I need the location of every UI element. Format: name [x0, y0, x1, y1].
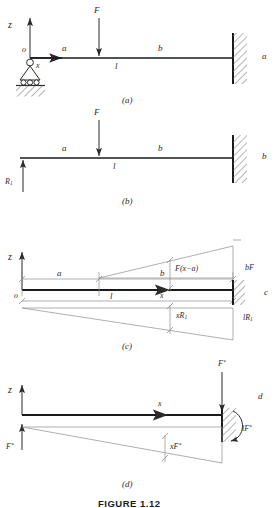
panel-b-reaction-label: R1	[5, 178, 13, 186]
panel-c-axis-z-label: z	[8, 252, 12, 262]
panel-b-span-l-label: l	[113, 162, 116, 171]
panel-a-axis-z-label: z	[8, 20, 12, 30]
panel-d-virtual-moment-label: lF*	[242, 425, 252, 433]
panel-c-moment-lower-label: xR1	[176, 312, 187, 320]
panel-c-axis-x-label: x	[160, 292, 164, 300]
panel-c-graphics	[19, 240, 245, 340]
panel-c-origin-label: o	[14, 292, 18, 300]
panel-a-span-l-label: l	[115, 62, 118, 71]
panel-d-virtual-moment-mid-label: xF*	[170, 443, 181, 451]
panel-d-graphics	[22, 372, 243, 463]
panel-c-moment-lower-end-label: lR1	[243, 314, 253, 322]
panel-c-side-letter: c	[264, 288, 268, 297]
panel-d-virtual-force-top-label: F*	[218, 360, 226, 368]
panel-d-axis-z-label: z	[8, 385, 12, 395]
figure-vector-canvas	[0, 0, 280, 508]
panel-c-segment-a-label: a	[57, 269, 62, 278]
panel-b-side-letter: b	[262, 152, 267, 161]
panel-a-axis-x-label: x	[36, 62, 40, 70]
panel-a-origin-label: o	[22, 46, 26, 54]
panel-a-side-letter: a	[262, 52, 267, 61]
panel-b-caption: (b)	[122, 196, 133, 206]
panel-d-caption: (d)	[122, 479, 133, 489]
panel-c-span-l-label: l	[110, 292, 113, 301]
panel-a-force-label: F	[94, 6, 100, 15]
panel-c-segment-b-label: b	[160, 269, 165, 278]
panel-c-caption: (c)	[122, 341, 132, 351]
engineering-figure: z o x a b l F a (a) R1 a b l F b (b) z o…	[0, 0, 280, 508]
figure-caption: FIGURE 1.12	[98, 498, 161, 508]
panel-b-graphics	[20, 120, 247, 192]
panel-a-segment-a-label: a	[62, 44, 67, 53]
panel-b-force-label: F	[94, 108, 100, 117]
panel-a-segment-b-label: b	[158, 44, 163, 53]
panel-d-axis-x-label: x	[158, 400, 162, 408]
panel-c-moment-upper-label: F(x−a)	[175, 265, 198, 273]
panel-d-side-letter: d	[258, 392, 263, 401]
panel-a-graphics	[16, 18, 247, 97]
panel-c-moment-upper-end-label: bF	[245, 264, 254, 272]
panel-d-virtual-force-left-label: F*	[6, 443, 14, 451]
panel-b-segment-b-label: b	[158, 144, 163, 153]
panel-a-caption: (a)	[122, 95, 133, 105]
panel-b-segment-a-label: a	[62, 144, 67, 153]
